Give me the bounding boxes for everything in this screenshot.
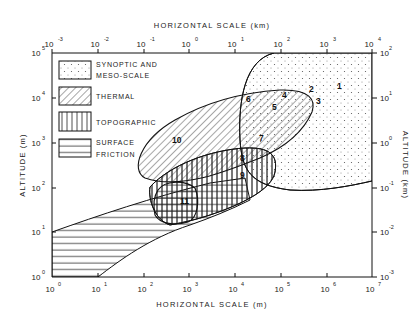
legend-swatch-thermal — [59, 87, 91, 105]
svg-text:FRICTION: FRICTION — [96, 151, 135, 158]
svg-text:TOPOGRAPHIC: TOPOGRAPHIC — [96, 119, 156, 126]
svg-text:1: 1 — [337, 81, 342, 91]
svg-text:1: 1 — [42, 224, 45, 230]
svg-text:10: 10 — [32, 184, 41, 193]
svg-text:10: 10 — [138, 285, 147, 294]
svg-text:0: 0 — [42, 269, 45, 275]
svg-text:THERMAL: THERMAL — [96, 93, 135, 100]
svg-text:5: 5 — [42, 45, 45, 51]
svg-text:10: 10 — [32, 139, 41, 148]
svg-text:10: 10 — [32, 228, 41, 237]
svg-text:3: 3 — [42, 135, 45, 141]
svg-text:5: 5 — [272, 102, 277, 112]
svg-text:10: 10 — [32, 49, 41, 58]
svg-text:6: 6 — [246, 94, 251, 104]
svg-text:4: 4 — [42, 90, 45, 96]
svg-text:10: 10 — [321, 285, 330, 294]
svg-text:10: 10 — [274, 40, 283, 49]
svg-text:10: 10 — [137, 40, 146, 49]
legend-swatch-synoptic — [59, 61, 91, 79]
region-11 — [154, 182, 198, 224]
svg-text:2: 2 — [309, 84, 314, 94]
svg-text:11: 11 — [180, 196, 189, 206]
right-ticks — [372, 53, 377, 277]
svg-text:0: 0 — [195, 36, 198, 42]
svg-text:2: 2 — [150, 281, 153, 287]
svg-text:1: 1 — [241, 36, 244, 42]
svg-text:2: 2 — [42, 180, 45, 186]
left-axis-title: ALTITUDE (m) — [18, 133, 27, 196]
svg-text:-1: -1 — [389, 180, 394, 186]
svg-text:10: 10 — [183, 285, 192, 294]
svg-text:10: 10 — [32, 273, 41, 282]
legend: SYNOPTIC AND MESO-SCALE THERMAL TOPOGRAP… — [59, 61, 158, 158]
svg-text:10: 10 — [275, 285, 284, 294]
svg-text:-2: -2 — [104, 36, 109, 42]
svg-text:0: 0 — [58, 281, 61, 287]
svg-text:10: 10 — [32, 94, 41, 103]
svg-text:10: 10 — [366, 285, 375, 294]
left-ticks — [52, 98, 56, 232]
svg-text:-3: -3 — [389, 269, 394, 275]
svg-text:7: 7 — [259, 133, 264, 143]
top-ticks — [52, 49, 372, 53]
svg-text:10: 10 — [229, 285, 238, 294]
svg-text:MESO-SCALE: MESO-SCALE — [96, 72, 150, 79]
svg-text:-3: -3 — [58, 36, 63, 42]
right-axis-title: ALTITUDE (km) — [401, 131, 410, 199]
svg-text:8: 8 — [240, 153, 245, 163]
svg-text:-1: -1 — [150, 36, 155, 42]
svg-text:10: 10 — [182, 40, 191, 49]
top-axis-title: HORIZONTAL SCALE (km) — [154, 21, 270, 30]
svg-text:9: 9 — [240, 170, 245, 180]
svg-text:4: 4 — [282, 90, 287, 100]
svg-text:SURFACE: SURFACE — [96, 139, 135, 146]
svg-text:1: 1 — [389, 90, 392, 96]
left-tick-labels: 100 101 102 103 104 105 — [32, 45, 46, 282]
svg-text:3: 3 — [195, 281, 198, 287]
svg-text:10: 10 — [228, 40, 237, 49]
svg-text:4: 4 — [241, 281, 244, 287]
svg-text:3: 3 — [333, 36, 336, 42]
svg-text:10: 10 — [172, 135, 182, 145]
svg-text:10: 10 — [45, 40, 54, 49]
right-tick-labels: 10-3 10-2 10-1 100 101 102 — [380, 45, 394, 282]
svg-text:2: 2 — [287, 36, 290, 42]
legend-swatch-topographic — [59, 112, 91, 131]
svg-text:2: 2 — [389, 45, 392, 51]
svg-text:10: 10 — [320, 40, 329, 49]
svg-text:10: 10 — [92, 285, 101, 294]
bottom-axis-title: HORIZONTAL SCALE (m) — [156, 300, 268, 309]
svg-text:-2: -2 — [389, 224, 394, 230]
bottom-ticks — [98, 273, 327, 277]
scale-diagram: HORIZONTAL SCALE (km) 10-3 10-2 10-1 — [0, 0, 415, 321]
svg-text:5: 5 — [287, 281, 290, 287]
legend-swatch-surface-friction — [59, 139, 91, 157]
svg-text:10: 10 — [46, 285, 55, 294]
svg-text:10: 10 — [91, 40, 100, 49]
svg-text:6: 6 — [333, 281, 336, 287]
top-tick-labels: 10-3 10-2 10-1 100 101 102 103 104 — [45, 36, 382, 49]
svg-text:1: 1 — [104, 281, 107, 287]
svg-text:SYNOPTIC AND: SYNOPTIC AND — [96, 61, 158, 68]
svg-text:0: 0 — [389, 135, 392, 141]
svg-text:10: 10 — [365, 40, 374, 49]
svg-text:3: 3 — [316, 96, 321, 106]
bottom-tick-labels: 100 101 102 103 104 105 106 107 — [46, 281, 382, 294]
svg-text:4: 4 — [378, 36, 381, 42]
regions — [52, 53, 372, 277]
